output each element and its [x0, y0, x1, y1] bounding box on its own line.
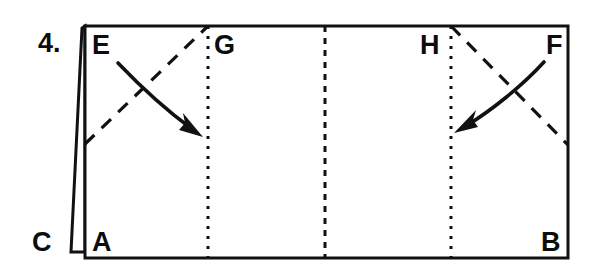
vertex-label-E: E	[92, 32, 110, 59]
vertex-label-A: A	[92, 229, 112, 256]
vertex-label-F: F	[546, 32, 563, 59]
diagram-canvas: 4. E G H F C A B	[0, 0, 592, 276]
origami-figure	[0, 0, 592, 276]
left-folded-flap	[71, 26, 85, 252]
step-number: 4.	[38, 30, 61, 57]
vertex-label-C: C	[32, 229, 52, 256]
vertex-label-G: G	[214, 32, 235, 59]
vertex-label-B: B	[541, 229, 561, 256]
vertex-label-H: H	[420, 32, 440, 59]
